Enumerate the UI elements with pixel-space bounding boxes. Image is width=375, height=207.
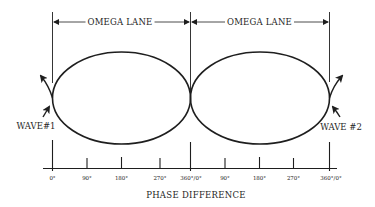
axis-tick-label: 360°/0° bbox=[320, 176, 341, 182]
wave-2-arrow-lower bbox=[333, 107, 340, 117]
lane-2-ellipse bbox=[191, 52, 330, 144]
phase-difference-diagram: OMEGA LANE OMEGA LANE WAVE#1 WAVE #2 0° … bbox=[0, 0, 375, 207]
lane-1-ellipse bbox=[53, 52, 191, 144]
axis-tick-label: 360°/0° bbox=[180, 176, 201, 182]
wave-2-label: WAVE #2 bbox=[320, 123, 362, 132]
axis-tick-label: 90° bbox=[82, 176, 92, 182]
axis-tick-label: 90° bbox=[220, 176, 230, 182]
wave-1-label: WAVE#1 bbox=[17, 122, 56, 131]
axis-tick-label: 270° bbox=[153, 176, 166, 182]
lane-1-label: OMEGA LANE bbox=[86, 18, 155, 27]
axis-tick-label: 180° bbox=[115, 176, 128, 182]
lane-2-label: OMEGA LANE bbox=[225, 18, 294, 27]
wave-2-arrow-upper bbox=[330, 76, 343, 98]
wave-1-arrow-lower bbox=[43, 107, 49, 117]
axis-title: PHASE DIFFERENCE bbox=[146, 191, 246, 200]
wave-1-arrow-upper bbox=[41, 76, 53, 98]
axis-tick-label: 0° bbox=[49, 176, 55, 182]
axis-tick-label: 180° bbox=[253, 176, 266, 182]
axis-tick-label: 270° bbox=[287, 176, 300, 182]
